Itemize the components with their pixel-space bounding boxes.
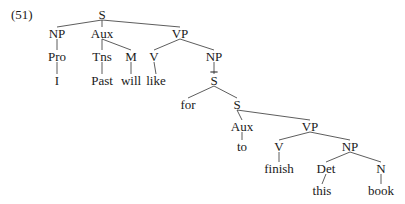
- tree-node-pro: Pro: [48, 50, 66, 63]
- tree-node-sbar: S: [210, 74, 217, 87]
- tree-node-s1: S: [98, 8, 105, 21]
- tree-node-w-to: to: [237, 140, 247, 153]
- tree-node-w-will: will: [121, 74, 141, 87]
- tree-node-v2: V: [274, 140, 283, 153]
- tree-node-w-i: I: [55, 74, 59, 87]
- tree-node-s2: S: [233, 98, 240, 111]
- tree-node-v1: V: [149, 50, 158, 63]
- tree-node-aux1: Aux: [91, 27, 113, 40]
- tree-node-vp1: VP: [172, 27, 189, 40]
- tree-node-w-book: book: [368, 184, 394, 197]
- tree-node-w-past: Past: [91, 74, 113, 87]
- tree-node-w-this: this: [313, 184, 332, 197]
- tree-node-np2: NP: [206, 50, 223, 63]
- tree-node-det: Det: [317, 162, 336, 175]
- tree-edge: [102, 20, 180, 27]
- tree-node-w-for: for: [180, 98, 195, 111]
- tree-node-m: M: [125, 50, 137, 63]
- tree-node-np3: NP: [342, 140, 359, 153]
- tree-node-w-finish: finish: [264, 162, 294, 175]
- tree-node-tns: Tns: [92, 50, 112, 63]
- tree-node-aux2: Aux: [231, 120, 253, 133]
- tree-node-np1: NP: [49, 27, 66, 40]
- tree-node-w-like: like: [146, 74, 166, 87]
- tree-node-vp2: VP: [302, 120, 319, 133]
- tree-node-n: N: [376, 162, 385, 175]
